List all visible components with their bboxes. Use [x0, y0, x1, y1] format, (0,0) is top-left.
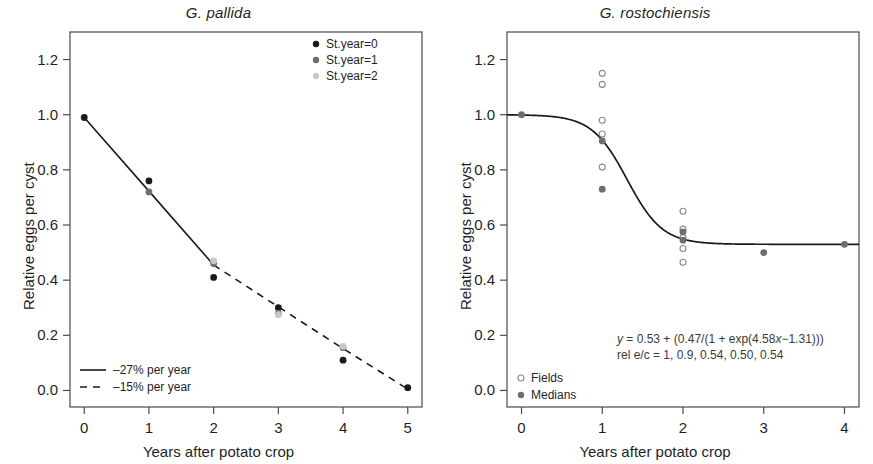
- plot-frame-left: [70, 32, 422, 407]
- legend-marker: [313, 57, 319, 63]
- x-tick-label: 1: [145, 419, 153, 436]
- legend-label: St.year=1: [326, 53, 378, 67]
- equation-annotation-right: y = 0.53 + (0.47/(1 + exp(4.58x−1.31)))r…: [616, 332, 824, 362]
- data-point: [599, 164, 605, 170]
- plot-area-right: 012340.00.20.40.60.81.01.2 FieldsMedians…: [437, 0, 873, 464]
- data-point: [210, 274, 217, 281]
- y-tick-label: 0.2: [474, 326, 495, 343]
- data-point: [680, 208, 686, 214]
- panel-g-pallida: G. pallida Relative eggs per cyst Years …: [0, 0, 437, 464]
- legend-label: Fields: [531, 371, 563, 385]
- y-tick-label: 0.8: [37, 161, 58, 178]
- data-point: [599, 70, 605, 76]
- x-tick-label: 2: [679, 419, 687, 436]
- x-tick-label: 4: [339, 419, 347, 436]
- data-point: [146, 177, 153, 184]
- logistic-fit-curve: [507, 115, 859, 244]
- data-point: [760, 249, 767, 256]
- y-tick-label: 1.0: [37, 106, 58, 123]
- data-point: [518, 111, 525, 118]
- fit-lines-left: [84, 117, 408, 389]
- data-point: [404, 384, 411, 391]
- legend-styear-left: St.year=0St.year=1St.year=2: [313, 37, 378, 83]
- data-point: [599, 81, 605, 87]
- data-point: [210, 257, 217, 264]
- figure-two-panel-chart: G. pallida Relative eggs per cyst Years …: [0, 0, 873, 464]
- data-points-right: [518, 70, 848, 265]
- y-tick-label: 0.2: [37, 326, 58, 343]
- y-tick-label: 0.8: [474, 161, 495, 178]
- data-point: [599, 186, 606, 193]
- y-tick-label: 0.0: [37, 381, 58, 398]
- y-tick-label: 0.4: [474, 271, 495, 288]
- legend-fields-medians-right: FieldsMedians: [518, 371, 577, 402]
- data-point: [599, 117, 605, 123]
- axis-ticks-left: [63, 60, 408, 414]
- legend-label: –27% per year: [113, 363, 191, 377]
- annotation-relative-eggs: rel e/c = 1, 0.9, 0.54, 0.50, 0.54: [617, 348, 784, 362]
- data-point: [81, 114, 88, 121]
- legend-label: St.year=2: [326, 69, 378, 83]
- data-point: [680, 245, 686, 251]
- legend-label: –15% per year: [113, 380, 191, 394]
- data-point: [680, 237, 687, 244]
- legend-marker: [518, 392, 524, 398]
- data-point: [275, 311, 282, 318]
- x-tick-label: 3: [274, 419, 282, 436]
- x-tick-label: 5: [404, 419, 412, 436]
- legend-marker: [518, 375, 524, 381]
- y-tick-label: 0.0: [474, 381, 495, 398]
- annotation-equation: y = 0.53 + (0.47/(1 + exp(4.58x−1.31))): [616, 332, 824, 346]
- x-tick-label: 1: [598, 419, 606, 436]
- legend-marker: [313, 41, 319, 47]
- plot-area-left: 0123450.00.20.40.60.81.01.2 St.year=0St.…: [0, 0, 437, 464]
- x-tick-label: 2: [209, 419, 217, 436]
- legend-label: Medians: [531, 388, 576, 402]
- x-tick-label: 0: [80, 419, 88, 436]
- y-tick-label: 0.4: [37, 271, 58, 288]
- legend-decay-rates-left: –27% per year–15% per year: [80, 363, 191, 394]
- data-point: [680, 259, 686, 265]
- panel-g-rostochiensis: G. rostochiensis Relative eggs per cyst …: [437, 0, 873, 464]
- y-tick-label: 1.2: [37, 51, 58, 68]
- x-tick-label: 3: [760, 419, 768, 436]
- data-point: [841, 241, 848, 248]
- y-tick-label: 1.2: [474, 51, 495, 68]
- axis-tick-labels-left: 0123450.00.20.40.60.81.01.2: [37, 51, 412, 436]
- legend-marker: [313, 73, 319, 79]
- y-tick-label: 0.6: [37, 216, 58, 233]
- data-point: [680, 229, 687, 236]
- data-point: [599, 131, 605, 137]
- data-point: [599, 138, 606, 145]
- fit-curve-right: [507, 115, 859, 244]
- y-tick-label: 1.0: [474, 106, 495, 123]
- y-tick-label: 0.6: [474, 216, 495, 233]
- fit-line: [214, 265, 408, 389]
- x-tick-label: 0: [517, 419, 525, 436]
- legend-label: St.year=0: [326, 37, 378, 51]
- x-tick-label: 4: [840, 419, 848, 436]
- data-point: [146, 189, 153, 196]
- data-point: [340, 357, 347, 364]
- data-point: [340, 343, 347, 350]
- data-points-left: [81, 114, 411, 391]
